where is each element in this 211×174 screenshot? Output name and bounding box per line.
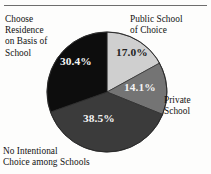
label-private-school: Private School [164,95,210,117]
label-public-school-of-choice: Public School of Choice [130,14,208,36]
label-no-intentional-choice: No Intentional Choice among Schools [3,146,133,168]
slice-value-no-intentional-choice: 38.5% [83,112,115,124]
slice-value-public-school: 17.0% [116,46,148,58]
figure-container: 17.0% 14.1% 38.5% 30.4% Choose Residence… [0,0,211,174]
slice-value-private-school: 14.1% [124,81,156,93]
label-choose-residence: Choose Residence on Basis of School [5,14,77,59]
